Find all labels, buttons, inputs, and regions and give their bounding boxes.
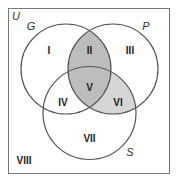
region-vii-label: VII bbox=[83, 133, 95, 144]
region-vi-label: VI bbox=[113, 97, 123, 108]
region-i-label: I bbox=[48, 45, 51, 56]
set-g-label: G bbox=[27, 20, 36, 32]
region-v-label: V bbox=[86, 82, 93, 93]
set-p-label: P bbox=[142, 20, 150, 32]
region-viii-label: VIII bbox=[16, 155, 31, 166]
universe-label: U bbox=[12, 10, 20, 22]
region-ii-label: II bbox=[87, 45, 93, 56]
set-s-label: S bbox=[126, 146, 134, 158]
region-iv-label: IV bbox=[58, 97, 68, 108]
venn-diagram: U G P S I II III IV V VI VII VIII bbox=[0, 0, 177, 183]
region-iii-label: III bbox=[126, 45, 135, 56]
